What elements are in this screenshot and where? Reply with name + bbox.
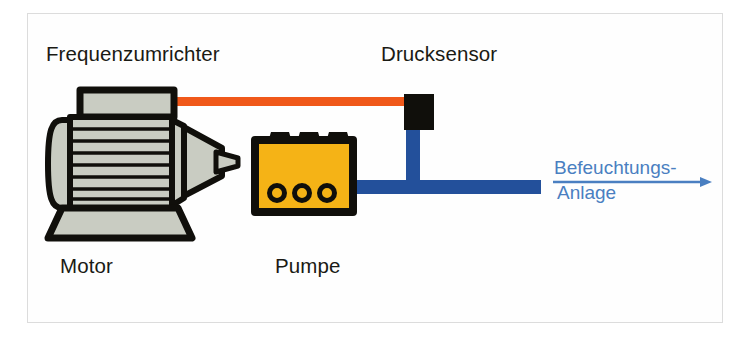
electric-motor [48,90,238,238]
label-motor: Motor [60,254,113,278]
label-pump: Pumpe [275,254,340,278]
pressure-sensor [404,94,434,130]
motor-base [48,208,192,238]
pump [255,132,353,212]
diagram-page: Frequenzumrichter Drucksensor Motor Pump… [0,0,751,339]
motor-cooling-fins [72,129,170,199]
discharge-pipe [344,120,541,194]
control-cable [170,97,415,106]
label-humidification-system-line2: Anlage [554,180,739,205]
motor-terminal-box [80,90,174,117]
label-humidification-system-line1: Befeuchtungs- [554,157,677,178]
label-humidification-system: Befeuchtungs- Anlage [554,155,739,205]
label-pressure-sensor: Drucksensor [381,42,497,66]
motor-housing [70,117,172,210]
label-frequency-converter: Frequenzumrichter [46,42,220,66]
